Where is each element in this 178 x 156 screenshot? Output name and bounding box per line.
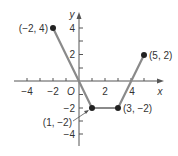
point-marker xyxy=(115,105,121,111)
x-tick-label: −4 xyxy=(21,86,33,97)
y-tick-label: 2 xyxy=(69,49,75,60)
y-tick-label: −4 xyxy=(64,129,76,140)
x-axis-arrow-icon xyxy=(157,79,164,84)
x-tick-label: −2 xyxy=(47,86,59,97)
point-label: (1, −2) xyxy=(43,117,72,128)
y-tick-label: −2 xyxy=(64,103,76,114)
y-axis-arrow-icon xyxy=(77,12,82,19)
point-marker xyxy=(50,25,56,31)
x-tick-label: 4 xyxy=(129,86,135,97)
x-tick-label: 2 xyxy=(102,86,108,97)
point-marker xyxy=(89,105,95,111)
origin-label: O xyxy=(67,86,75,97)
y-tick-label: 4 xyxy=(69,23,75,34)
point-label: (3, −2) xyxy=(123,103,152,114)
x-axis-label: x xyxy=(157,86,164,97)
point-marker xyxy=(141,52,147,58)
y-axis-label: y xyxy=(69,9,76,20)
point-label: (5, 2) xyxy=(149,50,172,61)
point-label: (−2, 4) xyxy=(19,23,48,34)
piecewise-graph: −4 −2 O 2 4 x 4 2 −2 −4 y (−2, 4) (1, −2… xyxy=(0,0,178,156)
